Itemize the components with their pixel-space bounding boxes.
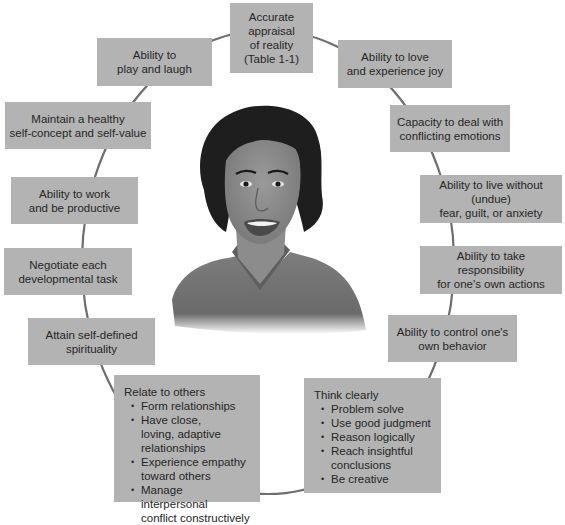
box-attain-spirituality: Attain self-defined spirituality	[28, 318, 155, 365]
list-item: Problem solve	[314, 402, 431, 416]
box-capacity-conflicting-emotions: Capacity to deal with conflicting emotio…	[390, 105, 510, 152]
box-relate-to-others: Relate to others Form relationships Have…	[114, 375, 260, 502]
portrait-illustration	[172, 106, 366, 334]
relate-to-others-heading: Relate to others	[124, 385, 250, 399]
box-take-responsibility: Ability to take responsibility for one's…	[420, 246, 562, 294]
relate-to-others-list: Form relationships Have close, loving, a…	[124, 399, 250, 525]
list-item: Reason logically	[314, 430, 431, 444]
box-ability-to-work: Ability to work and be productive	[11, 177, 138, 224]
box-play-and-laugh: Ability to play and laugh	[97, 38, 212, 86]
list-item: Be creative	[314, 472, 431, 486]
box-healthy-self-concept: Maintain a healthy self-concept and self…	[5, 102, 151, 149]
box-accurate-appraisal-of-reality: Accurate appraisal of reality (Table 1-1…	[230, 3, 313, 73]
box-control-behavior: Ability to control one's own behavior	[388, 315, 517, 362]
list-item: Experience empathy toward others	[124, 455, 250, 483]
list-item: Reach insightful conclusions	[314, 444, 431, 472]
think-clearly-list: Problem solve Use good judgment Reason l…	[314, 402, 431, 486]
think-clearly-heading: Think clearly	[314, 388, 431, 402]
list-item: Use good judgment	[314, 416, 431, 430]
box-negotiate-developmental-task: Negotiate each developmental task	[4, 248, 132, 295]
box-think-clearly: Think clearly Problem solve Use good jud…	[304, 378, 441, 493]
list-item: Have close, loving, adaptive relationshi…	[124, 413, 250, 455]
list-item: Manage interpersonal conflict constructi…	[124, 483, 250, 525]
box-ability-to-love: Ability to love and experience joy	[338, 40, 452, 88]
list-item: Form relationships	[124, 399, 250, 413]
box-live-without-fear: Ability to live without (undue) fear, gu…	[420, 175, 562, 223]
